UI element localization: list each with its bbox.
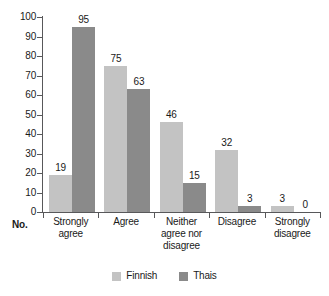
y-tick-label: 0	[2, 207, 36, 217]
bar-rect	[127, 89, 150, 212]
y-tick-mark	[37, 37, 42, 38]
y-tick-label: 70	[2, 71, 36, 81]
legend-item-thais: Thais	[179, 271, 216, 281]
bar-rect	[72, 27, 95, 212]
category-label: Neitheragree nordisagree	[154, 216, 209, 252]
legend-item-finnish: Finnish	[112, 271, 157, 281]
bar-rect	[238, 206, 261, 212]
y-tick-mark	[37, 56, 42, 57]
y-tick-label: 60	[2, 90, 36, 100]
legend-swatch	[112, 272, 121, 281]
bar-value-label: 0	[285, 200, 326, 210]
y-tick-label: 20	[2, 168, 36, 178]
legend-swatch	[179, 272, 188, 281]
bar-group: 323	[209, 17, 264, 212]
y-tick-mark	[37, 76, 42, 77]
plot-area: 19957563461532330	[43, 17, 320, 212]
bar-value-label: 46	[151, 110, 192, 120]
category-label: Agree	[98, 216, 153, 228]
bar-value-label: 75	[95, 54, 136, 64]
y-tick-label: 50	[2, 110, 36, 120]
bar-group: 30	[265, 17, 320, 212]
bar-finnish: 19	[49, 175, 72, 212]
category-label: Disagree	[209, 216, 264, 228]
y-tick-mark	[37, 212, 42, 213]
y-tick-label: 40	[2, 129, 36, 139]
bar-finnish: 46	[160, 122, 183, 212]
y-tick-mark	[37, 95, 42, 96]
x-axis-title: No.	[12, 219, 28, 231]
category-label: Stronglyagree	[43, 216, 98, 240]
y-tick-label: 90	[2, 32, 36, 42]
bar-thais: 63	[127, 89, 150, 212]
bar-finnish: 75	[104, 66, 127, 212]
y-tick-mark	[37, 17, 42, 18]
bar-group: 4615	[154, 17, 209, 212]
y-tick-mark	[37, 134, 42, 135]
x-axis-line	[42, 212, 321, 213]
bar-thais: 15	[183, 183, 206, 212]
y-tick-label: 10	[2, 188, 36, 198]
x-tick-mark	[320, 213, 321, 218]
category-label: Stronglydisagree	[265, 216, 320, 240]
bar-rect	[160, 122, 183, 212]
legend-label: Thais	[193, 271, 216, 281]
y-axis-labels: 0102030405060708090100	[0, 0, 36, 296]
bar-thais: 3	[238, 206, 261, 212]
y-tick-mark	[37, 115, 42, 116]
bar-chart: 0102030405060708090100 19957563461532330…	[0, 0, 329, 296]
chart-legend: FinnishThais	[0, 271, 329, 281]
y-tick-label: 80	[2, 51, 36, 61]
y-tick-mark	[37, 193, 42, 194]
bar-value-label: 32	[206, 138, 247, 148]
bar-group: 1995	[43, 17, 98, 212]
bar-group: 7563	[98, 17, 153, 212]
bar-thais: 95	[72, 27, 95, 212]
y-tick-mark	[37, 173, 42, 174]
y-tick-label: 30	[2, 149, 36, 159]
category-labels: StronglyagreeAgreeNeitheragree nordisagr…	[43, 216, 320, 272]
bar-rect	[183, 183, 206, 212]
bar-rect	[104, 66, 127, 212]
y-tick-label: 100	[2, 12, 36, 22]
bar-rect	[49, 175, 72, 212]
legend-label: Finnish	[126, 271, 157, 281]
y-tick-mark	[37, 154, 42, 155]
